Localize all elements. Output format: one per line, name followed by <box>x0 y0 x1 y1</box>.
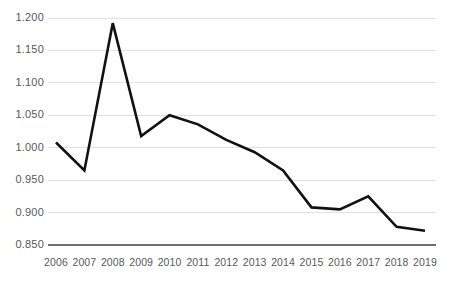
x-axis-tick-label: 2019 <box>405 256 445 268</box>
y-axis-tick-label: 0.950 <box>0 173 44 185</box>
series-line <box>56 23 425 231</box>
y-axis-tick-label: 0.900 <box>0 206 44 218</box>
y-axis-tick-label: 1.150 <box>0 43 44 55</box>
y-axis-tick-label: 1.100 <box>0 76 44 88</box>
gridlines <box>48 18 436 213</box>
line-chart: 1.2001.1501.1001.0501.0000.9500.9000.850… <box>0 0 452 281</box>
y-axis-tick-label: 1.050 <box>0 108 44 120</box>
y-axis-tick-label: 0.850 <box>0 238 44 250</box>
plot-area <box>0 0 452 281</box>
y-axis-tick-label: 1.200 <box>0 11 44 23</box>
y-axis-tick-label: 1.000 <box>0 141 44 153</box>
